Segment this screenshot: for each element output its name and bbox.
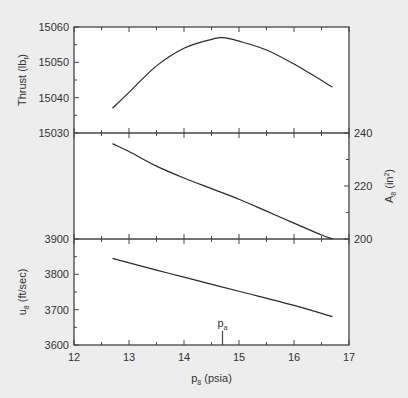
chart-figure: 121314151617p8 (psia)1503015040150501506… [0,0,408,398]
y-axis-label: u8 (ft/sec) [16,269,30,316]
x-axis-label: p8 (psia) [191,372,232,386]
y-tick-label: 3800 [45,268,69,280]
y-tick-label: 3700 [45,304,69,316]
y-tick-label: 15050 [38,56,69,68]
y-axis-label: Thrust (lbf) [16,54,30,106]
y-tick-label: 200 [354,233,372,245]
y-tick-label: 240 [354,127,372,139]
y-tick-label: 15030 [38,127,69,139]
y-tick-label: 220 [354,180,372,192]
y-tick-label: 15040 [38,92,69,104]
y-tick-label: 15060 [38,21,69,33]
x-tick-label: 13 [123,351,135,363]
x-tick-label: 16 [288,351,300,363]
plot-area [74,27,349,345]
y-axis-label: A8 (in2) [383,169,397,203]
stacked-line-chart: 121314151617p8 (psia)1503015040150501506… [0,0,408,398]
x-tick-label: 14 [178,351,190,363]
y-tick-label: 3600 [45,339,69,351]
x-tick-label: 12 [68,351,80,363]
x-tick-label: 15 [233,351,245,363]
x-tick-label: 17 [343,351,355,363]
y-tick-label: 3900 [45,233,69,245]
